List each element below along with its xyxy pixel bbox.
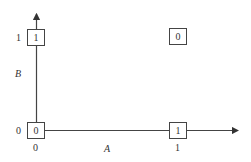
cell-a1-b0: 1 <box>169 122 187 139</box>
x-axis-label: A <box>104 144 110 154</box>
x-tick-1: 1 <box>175 143 180 153</box>
y-tick-0: 0 <box>16 126 21 136</box>
y-axis-label: B <box>15 69 21 79</box>
cell-a1-b1: 0 <box>169 28 187 45</box>
x-tick-0: 0 <box>33 143 38 153</box>
cell-a0-b0: 0 <box>27 122 45 139</box>
cell-a0-b1: 1 <box>27 29 45 46</box>
y-tick-1: 1 <box>16 33 21 43</box>
